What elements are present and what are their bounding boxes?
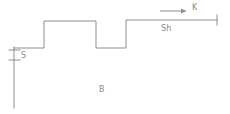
label-sh: Sh [161,25,172,33]
label-k: K [192,4,197,12]
right-arrow-head-icon [181,8,186,13]
step-waveform-path [14,20,217,48]
axis-group [9,47,20,108]
label-s: S [21,52,26,60]
label-b: B [99,86,105,94]
step-waveform-diagram: S B Sh K [0,0,230,114]
diagram-canvas [0,0,230,114]
waveform-group [14,20,217,48]
direction-arrow-group [160,8,186,13]
